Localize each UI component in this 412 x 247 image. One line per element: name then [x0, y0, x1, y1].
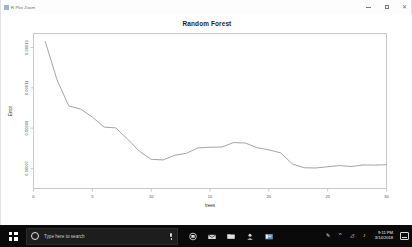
window-title: R Plot Zoom	[11, 5, 35, 10]
file-explorer-icon[interactable]	[221, 225, 240, 247]
network-icon[interactable]: ◿	[349, 232, 356, 241]
task-view-icon[interactable]	[183, 225, 202, 247]
pen-icon[interactable]: ✎	[325, 232, 332, 241]
y-tick-label: 0.00009	[25, 120, 30, 136]
volume-icon[interactable]: ♪	[361, 232, 368, 241]
plot-zoom-window: R Plot Zoom ✕ Random Forest 0.000070.000…	[0, 0, 412, 225]
show-hidden-icons-chevron[interactable]: ^	[337, 232, 344, 241]
x-tick-label: 0	[32, 194, 35, 199]
window-controls: ✕	[364, 0, 409, 14]
windows-logo-icon	[9, 232, 18, 241]
y-tick-label: 0.00007	[25, 160, 30, 176]
people-icon[interactable]	[240, 225, 259, 247]
clock[interactable]: 9:11 PM 3/14/2018	[373, 231, 395, 240]
microphone-icon[interactable]	[169, 233, 173, 240]
y-axis: 0.000070.000090.000110.00013	[25, 39, 34, 175]
y-axis-title: Error	[8, 105, 13, 116]
windows-taskbar: Type here to search ✎ ^ ◿ ♪ 9:11 PM 3/14…	[0, 225, 412, 247]
rstudio-icon[interactable]	[259, 225, 278, 247]
random-forest-line-chart: 0.000070.000090.000110.00013 05101520253…	[1, 14, 412, 225]
error-series-line	[45, 42, 386, 168]
pinned-apps	[183, 225, 278, 247]
title-bar[interactable]: R Plot Zoom ✕	[1, 0, 411, 14]
x-tick-label: 30	[384, 194, 389, 199]
minimize-icon[interactable]	[364, 2, 373, 13]
start-button[interactable]	[0, 225, 26, 247]
system-tray: ✎ ^ ◿ ♪ 9:11 PM 3/14/2018	[325, 225, 412, 247]
y-tick-label: 0.00013	[25, 39, 30, 55]
x-tick-label: 20	[267, 194, 272, 199]
y-tick-label: 0.00011	[25, 80, 30, 95]
maximize-icon[interactable]	[382, 2, 391, 13]
x-tick-label: 25	[325, 194, 330, 199]
plot-canvas: Random Forest 0.000070.000090.000110.000…	[1, 14, 412, 225]
cortana-circle-icon	[31, 232, 39, 240]
search-input[interactable]: Type here to search	[26, 228, 178, 245]
plot-frame	[34, 34, 387, 189]
search-placeholder: Type here to search	[44, 234, 164, 239]
x-axis-title: trees	[205, 203, 216, 208]
mail-icon[interactable]	[202, 225, 221, 247]
x-tick-label: 5	[91, 194, 94, 199]
x-tick-label: 10	[149, 194, 154, 199]
plot-window-icon	[4, 5, 9, 10]
clock-date: 3/14/2018	[375, 236, 393, 241]
close-icon[interactable]: ✕	[400, 2, 409, 13]
x-tick-label: 15	[208, 194, 213, 199]
title-bar-left: R Plot Zoom	[1, 5, 35, 10]
action-center-icon[interactable]	[400, 232, 409, 240]
x-axis: 051015202530	[32, 189, 389, 199]
